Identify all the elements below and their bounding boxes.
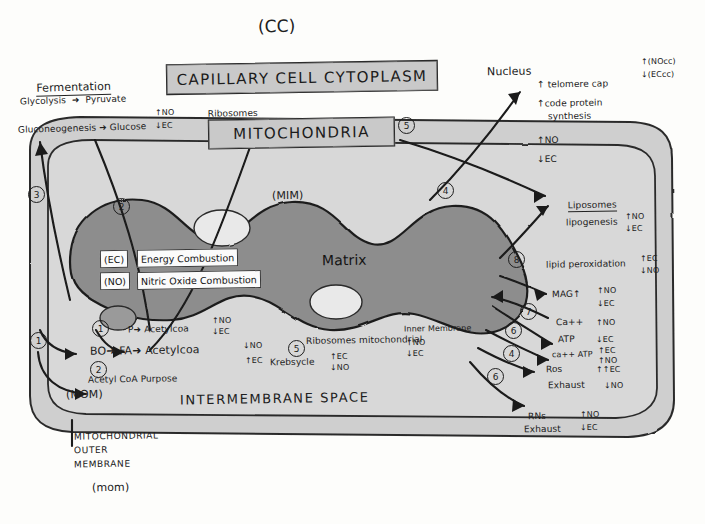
pathway-2-delta-no: ↓NO — [243, 342, 262, 351]
krebs-delta-ec: ↑EC — [330, 353, 348, 362]
callout-number-2b: 2 — [90, 361, 107, 378]
matrix-label: Matrix — [322, 253, 367, 268]
nucleus-corner-delta-nocc: ↑(NOcc) — [641, 58, 676, 67]
krebs-cycle-label: Krebsycle — [270, 358, 315, 368]
energetics-row-ca-atp: ca++ ATP — [552, 351, 593, 360]
pathway-1-delta-no: ↑NO — [212, 317, 231, 326]
nucleus-item-synthesis: synthesis — [548, 112, 591, 122]
liposome-row-lipogenesis: lipogenesis — [566, 218, 618, 228]
nucleus-corner-delta-eccc: ↓(ECcc) — [641, 71, 674, 80]
nucleus-item-ec: ↓EC — [537, 155, 557, 165]
mag-delta-ec: ↓EC — [597, 300, 615, 309]
pathway-1-delta-ec: ↓EC — [212, 328, 230, 337]
outer-membrane-caption-3: MEMBRANE — [74, 460, 131, 470]
callout-number-6a: 6 — [505, 322, 522, 339]
nucleus-heading: Nucleus — [487, 66, 532, 78]
ros-delta-ec: ↑↑EC — [596, 366, 621, 375]
callout-number-8: 8 — [508, 251, 525, 268]
callout-number-7: 7 — [520, 303, 537, 320]
energy-combustion-box: Energy Combustion — [137, 248, 238, 268]
callout-number-4a: 4 — [437, 182, 454, 199]
pathway-pyruvate-acetylcoa: P➜ Acetylcoa — [128, 325, 189, 335]
callout-number-3: 3 — [28, 186, 45, 203]
callout-number-1b: 1 — [30, 332, 47, 349]
pathway-2-delta-ec: ↑EC — [245, 357, 263, 366]
callout-number-5: 5 — [398, 117, 415, 134]
diagram-canvas: (CC) CAPILLARY CELL CYTOPLASM Ribosomes … — [0, 0, 705, 524]
callout-number-1a: 1 — [92, 320, 109, 337]
no-tag-box: (NO) — [100, 272, 130, 290]
liposome-row-lipid-peroxidation: lipid peroxidation — [546, 259, 626, 270]
callout-number-4b: 4 — [503, 345, 520, 362]
rns-delta-ec: ↓EC — [580, 424, 598, 433]
inner-membrane-delta-no: ↑NO — [406, 339, 425, 348]
callout-number-6b: 6 — [487, 368, 504, 385]
mom-label: (MOM) — [66, 389, 103, 401]
liposome-row-mag: MAG↑ — [552, 290, 581, 300]
mag-delta-no: ↑NO — [597, 287, 616, 296]
nucleus-item-code-protein: ↑code protein — [537, 98, 603, 108]
intermembrane-space-label: INTERMEMBRANE SPACE — [180, 391, 370, 408]
callout-number-krebs: 5 — [288, 340, 305, 357]
lipid-perox-delta-ec: ↑EC — [640, 255, 658, 264]
nucleus-item-telomere: ↑ telomere cap — [537, 79, 608, 90]
ca-atp-delta-ec: ↑EC — [598, 347, 616, 356]
rns-label-line1: RNs — [528, 412, 546, 422]
fermentation-delta-ec: ↓EC — [155, 122, 173, 131]
mitochondria-banner: MITOCHONDRIA — [208, 117, 395, 150]
energetics-row-exhaust: Exhaust — [548, 381, 585, 391]
mim-label: (MIM) — [272, 190, 303, 202]
ec-tag-box: (EC) — [100, 250, 128, 268]
callout-number-2a: 2 — [113, 198, 130, 215]
ca-delta-no: ↑NO — [596, 319, 615, 328]
energetics-row-ros: Ros — [546, 365, 563, 375]
inner-membrane-label: Inner Membrane — [404, 324, 472, 333]
capillary-cell-cytoplasm-banner: CAPILLARY CELL CYTOPLASM — [166, 60, 438, 95]
pathway-bo-fa-acetylcoa: BO➜ FA➜ Acetylcoa — [90, 344, 200, 357]
nitric-oxide-combustion-box: Nitric Oxide Combustion — [137, 270, 261, 290]
liposomes-heading-text: Liposomes — [568, 200, 617, 213]
exhaust-delta-no: ↓NO — [604, 382, 623, 391]
atp-delta-ec: ↓EC — [596, 336, 614, 345]
mom-small-label: (mom) — [92, 482, 129, 494]
energetics-row-atp: ATP — [558, 335, 575, 345]
lipid-perox-delta-no: ↓NO — [640, 267, 659, 276]
outer-membrane-caption-1: MITOCHONDRIAL — [74, 431, 159, 442]
rns-delta-no: ↑NO — [580, 411, 599, 420]
krebs-delta-no: ↓NO — [330, 364, 349, 373]
cc-tag: (CC) — [258, 18, 296, 36]
outer-membrane-caption-2: OUTER — [74, 446, 108, 456]
lipogenesis-delta-no: ↑NO — [625, 213, 644, 222]
inner-membrane-delta-ec: ↓EC — [406, 350, 424, 359]
energetics-row-ca: Ca++ — [556, 318, 583, 328]
rns-label-line2: Exhaust — [524, 425, 561, 435]
lipogenesis-delta-ec: ↓EC — [625, 225, 643, 234]
fermentation-delta-no: ↑NO — [155, 109, 174, 118]
nucleus-item-no: ↑NO — [537, 136, 559, 146]
